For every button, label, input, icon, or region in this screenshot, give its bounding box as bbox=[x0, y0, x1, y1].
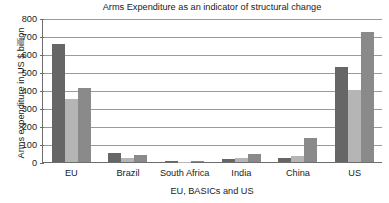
bar-group-bars bbox=[270, 19, 327, 162]
x-axis-tick-label: South Africa bbox=[160, 168, 210, 179]
bar bbox=[235, 158, 248, 163]
bar bbox=[361, 32, 374, 162]
bar bbox=[78, 88, 91, 162]
x-axis-tick-label: Brazil bbox=[116, 168, 139, 179]
bar bbox=[65, 99, 78, 162]
bar-group: Brazil bbox=[100, 19, 157, 162]
y-axis-tick-label: 100 bbox=[22, 140, 37, 150]
bar bbox=[348, 90, 361, 162]
bar-group-bars bbox=[43, 19, 100, 162]
y-axis-tick-label: 200 bbox=[22, 122, 37, 132]
bar bbox=[165, 161, 178, 162]
y-axis-tick-label: 0 bbox=[32, 158, 37, 168]
bar-group-bars bbox=[326, 19, 383, 162]
bar bbox=[52, 44, 65, 162]
bar-group-bars bbox=[156, 19, 213, 162]
bar bbox=[335, 67, 348, 162]
bar bbox=[278, 158, 291, 162]
y-axis-tick-label: 600 bbox=[22, 50, 37, 60]
bar bbox=[191, 161, 204, 162]
y-axis-tick bbox=[40, 163, 44, 164]
y-axis-tick-label: 300 bbox=[22, 104, 37, 114]
x-axis-tick-label: China bbox=[286, 168, 310, 179]
bar-group: India bbox=[213, 19, 270, 162]
y-axis-tick-label: 400 bbox=[22, 86, 37, 96]
plot-area: 0100200300400500600700800EUBrazilSouth A… bbox=[42, 19, 382, 163]
bar bbox=[291, 156, 304, 162]
bar-group: US bbox=[326, 19, 383, 162]
bar-group-bars bbox=[100, 19, 157, 162]
y-axis-tick-label: 800 bbox=[22, 14, 37, 24]
bar-group: EU bbox=[43, 19, 100, 162]
bar bbox=[121, 158, 134, 162]
bar bbox=[134, 155, 147, 162]
bar-group: South Africa bbox=[156, 19, 213, 162]
bar bbox=[222, 159, 235, 162]
bar bbox=[248, 154, 261, 162]
y-axis-tick-label: 700 bbox=[22, 32, 37, 42]
x-axis-title: EU, BASICs and US bbox=[42, 186, 382, 197]
chart-title: Arms Expenditure as an indicator of stru… bbox=[42, 1, 382, 13]
x-axis-tick-label: EU bbox=[65, 168, 78, 179]
x-axis-tick-label: India bbox=[231, 168, 251, 179]
x-axis-tick-label: US bbox=[348, 168, 361, 179]
y-axis-tick-label: 500 bbox=[22, 68, 37, 78]
bar bbox=[304, 138, 317, 162]
bar bbox=[108, 153, 121, 162]
bar-group-bars bbox=[213, 19, 270, 162]
bar-group: China bbox=[270, 19, 327, 162]
bar-chart: Arms Expenditure as an indicator of stru… bbox=[0, 0, 389, 203]
